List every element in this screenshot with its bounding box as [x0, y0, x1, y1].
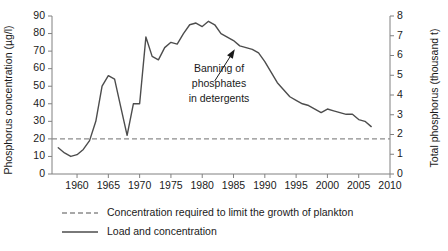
y2-tick-label: 4: [397, 88, 403, 100]
x-tick-label: 1995: [284, 179, 308, 191]
x-tick-label: 1985: [222, 179, 246, 191]
annotation-line-2: phosphates: [192, 77, 246, 89]
y-tick-label: 70: [33, 44, 45, 56]
y-tick-label: 10: [33, 149, 45, 161]
x-tick-label: 1975: [159, 179, 183, 191]
x-tick-label: 1980: [191, 179, 215, 191]
y2-tick-label: 3: [397, 108, 403, 120]
y-tick-label: 60: [33, 61, 45, 73]
y-tick-label: 40: [33, 97, 45, 109]
legend-label-threshold: Concentration required to limit the grow…: [107, 206, 353, 218]
y2-tick-label: 6: [397, 48, 403, 60]
y-axis-title: Phosphorus concentration (µg/l): [2, 25, 14, 174]
y-tick-label: 50: [33, 79, 45, 91]
y-tick-label: 20: [33, 132, 45, 144]
x-tick-label: 2000: [316, 179, 340, 191]
y2-axis-title: Total phosphorus (thousand t): [428, 29, 440, 168]
y2-tick-label: 7: [397, 29, 403, 41]
annotation-line-1: Banning of: [194, 62, 244, 74]
y-tick-label: 0: [39, 167, 45, 179]
phosphorus-chart-figure: Phosphorus concentration (µg/l) Total ph…: [0, 0, 448, 251]
annotation-line-3: in detergents: [189, 92, 250, 104]
x-tick-label: 1970: [128, 179, 152, 191]
x-tick-label: 1990: [253, 179, 277, 191]
chart-canvas: Phosphorus concentration (µg/l) Total ph…: [0, 0, 448, 251]
x-tick-label: 2005: [347, 179, 371, 191]
y-tick-label: 90: [33, 9, 45, 21]
legend-label-series: Load and concentration: [107, 225, 217, 237]
y2-tick-label: 2: [397, 127, 403, 139]
x-tick-label: 2010: [378, 179, 402, 191]
x-tick-label: 1960: [65, 179, 89, 191]
y2-tick-label: 0: [397, 167, 403, 179]
y2-tick-label: 1: [397, 147, 403, 159]
y-tick-label: 30: [33, 114, 45, 126]
y-tick-label: 80: [33, 26, 45, 38]
x-tick-label: 1965: [97, 179, 121, 191]
y2-tick-label: 8: [397, 9, 403, 21]
y2-tick-label: 5: [397, 68, 403, 80]
